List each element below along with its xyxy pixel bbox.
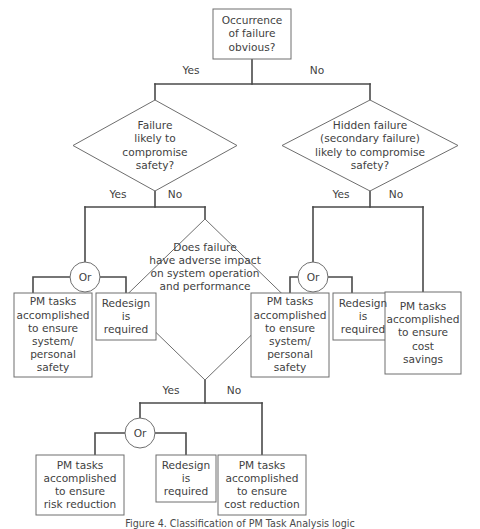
node-right-decision-shape: [282, 100, 458, 191]
edge-label-left-yes: Yes: [103, 188, 133, 200]
node-left-decision-shape: [73, 100, 237, 191]
node-start-shape: [213, 9, 291, 59]
node-bottom-redesign-shape: [156, 455, 216, 502]
connector-bottom-or-right-out: [155, 433, 186, 455]
node-cost-savings-shape: [385, 292, 461, 374]
node-risk-reduction-shape: [36, 455, 124, 515]
edge-label-right-no: No: [381, 188, 411, 200]
edge-label-center-no: No: [219, 384, 249, 396]
connector-right-or-left-out: [290, 277, 298, 293]
connector-right-or-right-out: [328, 277, 352, 293]
connector-bottom-or-left-out: [95, 433, 125, 455]
or-gate-right-label: Or: [298, 262, 328, 292]
node-left-redesign-shape: [96, 293, 156, 340]
edge-label-left-no: No: [160, 188, 190, 200]
or-gate-left-label: Or: [70, 262, 100, 292]
node-right-pm-shape: [251, 293, 329, 377]
node-left-pm-shape: [14, 293, 92, 377]
edge-label-center-yes: Yes: [156, 384, 186, 396]
edge-label-start-no: No: [302, 64, 332, 76]
edge-label-start-yes: Yes: [176, 64, 206, 76]
or-gate-bottom-label: Or: [125, 418, 155, 448]
edge-label-right-yes: Yes: [326, 188, 356, 200]
figure-caption: Figure 4. Classification of PM Task Anal…: [0, 518, 480, 529]
connector-left-or-left-out: [33, 277, 70, 293]
connector-left-or-right-out: [100, 277, 126, 293]
node-cost-reduction-shape: [218, 455, 306, 515]
node-right-redesign-shape: [333, 293, 393, 340]
